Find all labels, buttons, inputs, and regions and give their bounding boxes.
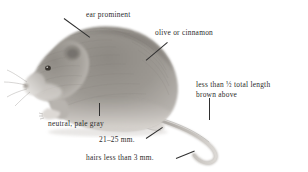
label-olive-or-cinnamon: olive or cinnamon [155, 28, 213, 38]
label-tail-hairs-measure: hairs less than 3 mm. [86, 153, 154, 163]
front-foot [39, 98, 69, 119]
eye [45, 65, 51, 70]
leader-neutral-pale-gray [99, 103, 100, 116]
ear [64, 46, 81, 61]
label-tail-length: less than ½ total length brown above [196, 80, 308, 99]
tail-length-suffix: total length [232, 80, 271, 89]
label-neutral-pale-gray: neutral, pale gray [48, 119, 104, 129]
tail [158, 118, 216, 163]
label-hind-foot-measure: 21–25 mm. [99, 135, 135, 145]
illustration-page: ear prominent olive or cinnamon less tha… [0, 0, 308, 172]
label-ear-prominent: ear prominent [86, 10, 131, 20]
leader-tail-length [209, 98, 210, 120]
label-tail-length-line1: less than ½ total length [196, 80, 270, 89]
label-tail-length-line2: brown above [196, 90, 237, 99]
tail-length-prefix: less than [196, 80, 226, 89]
